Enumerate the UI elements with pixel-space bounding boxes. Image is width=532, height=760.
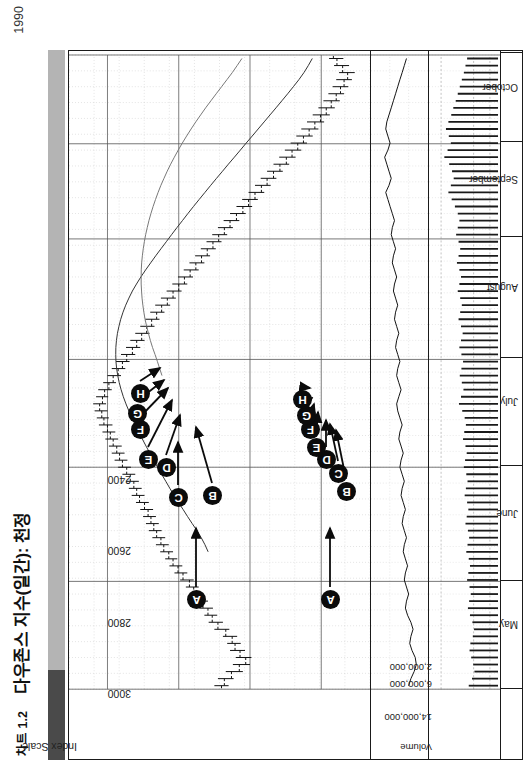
month-divider xyxy=(501,236,522,237)
price-tick-label: 2800 xyxy=(108,617,131,629)
price-tick-label: 2600 xyxy=(108,545,131,557)
month-divider xyxy=(501,357,522,358)
month-label: August xyxy=(487,282,518,293)
price-tick-label: 2400 xyxy=(108,474,131,486)
oscillator-panel xyxy=(371,51,429,759)
month-divider xyxy=(501,141,522,142)
month-label: May xyxy=(499,619,518,630)
month-label: October xyxy=(482,82,518,93)
month-label: September xyxy=(469,174,518,185)
marker-badge-h: H xyxy=(131,384,150,403)
volume-tick-label: 6,000,000 xyxy=(390,679,432,690)
header-rule-light xyxy=(48,50,65,760)
marker-badge-f: F xyxy=(131,420,150,439)
marker-badge-e: E xyxy=(307,438,326,457)
month-label: June xyxy=(496,508,518,519)
month-divider xyxy=(501,52,522,53)
marker-badge-a: A xyxy=(321,590,340,609)
volume-tick-label: 2,000,000 xyxy=(390,662,432,673)
chart-year: 1990 xyxy=(12,6,26,34)
marker-badge-a: A xyxy=(187,590,206,609)
month-axis: MayJuneJulyAugustSeptemberOctober xyxy=(501,51,522,759)
month-divider xyxy=(501,580,522,581)
marker-badge-e: E xyxy=(139,450,158,469)
month-divider xyxy=(501,465,522,466)
marker-badge-d: D xyxy=(157,458,176,477)
marker-badge-c: C xyxy=(169,488,188,507)
volume-tick-label: 14,000,000 xyxy=(384,712,432,723)
volume-caption: Volume xyxy=(400,742,432,753)
price-tick-label: 3000 xyxy=(108,688,131,700)
volume-panel: Volume 14,000,0006,000,0002,000,000 xyxy=(429,51,501,759)
marker-badge-b: B xyxy=(203,486,222,505)
rotated-figure: 차트 1.2 다우존스 지수(일간): 천정 1990 Index Scale … xyxy=(0,0,532,760)
marker-badge-b: B xyxy=(337,482,356,501)
chart-header: 차트 1.2 다우존스 지수(일간): 천정 1990 xyxy=(0,0,44,760)
price-panel: Index Scale 3000280026002400 xyxy=(69,51,371,759)
price-scale-caption: Index Scale xyxy=(22,741,77,753)
marker-badge-g: G xyxy=(128,404,147,423)
chart-title: 다우존스 지수(일간): 천정 xyxy=(8,512,33,694)
marker-badge-h: H xyxy=(293,390,312,409)
month-divider xyxy=(501,688,522,689)
month-label: July xyxy=(500,396,518,407)
